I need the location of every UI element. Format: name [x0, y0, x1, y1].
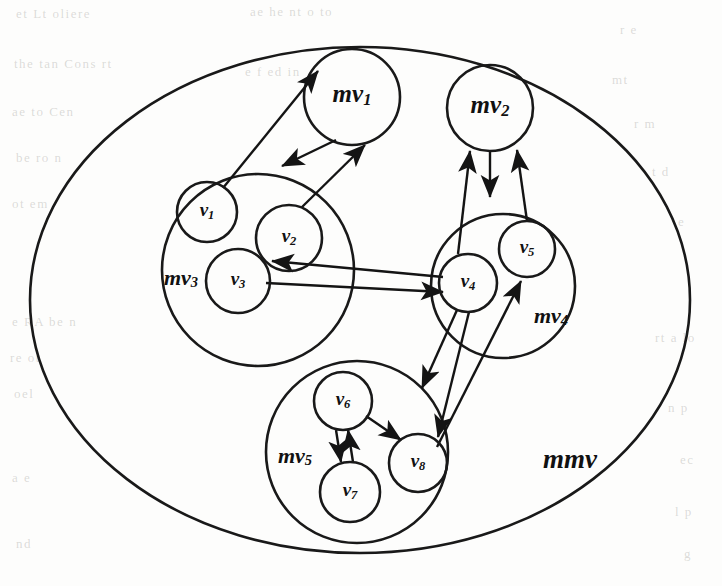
root-label-mmv: mmv — [543, 444, 598, 474]
graph-svg: mv1mv2mv3mv4mv5v1v2v3v4v5v6v7v8mmv — [0, 0, 722, 586]
diagram-canvas: et Lt oliereae he nt o tor ethe tan Cons… — [0, 0, 722, 586]
